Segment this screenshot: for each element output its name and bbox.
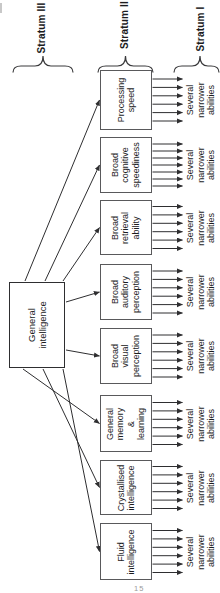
g-to-broad-arrow [63, 228, 100, 282]
narrow-abilities-label: Several narrower abilities [185, 210, 217, 246]
narrow-abilities-label: Several narrower abilities [185, 82, 217, 118]
g-to-broad-arrow [66, 292, 100, 302]
narrow-abilities-label: Several narrower abilities [185, 274, 217, 310]
g-to-broad-arrow [45, 165, 100, 281]
page-edge-artifact [0, 3, 2, 13]
broad-ability-box-general-memory-learning: General memory & learning [100, 395, 152, 452]
broad-ability-box-crystallised-intelligence: Crystallised intelligence [100, 460, 152, 515]
general-intelligence-box: General intelligence [9, 282, 65, 368]
narrow-abilities-label: Several narrower abilities [185, 338, 217, 374]
broad-ability-label: Broad cognitive speediness [110, 142, 141, 188]
stratum-i-label: Stratum I [195, 6, 207, 51]
narrow-abilities-label: Several narrower abilities [185, 406, 217, 442]
stratum-iii-label: Stratum III [36, 2, 48, 53]
broad-ability-box-broad-cognitive-speediness: Broad cognitive speediness [100, 137, 152, 193]
g-to-broad-arrow [63, 369, 100, 552]
broad-ability-label: Processing speed [116, 78, 137, 123]
broad-ability-box-broad-retrieval-ability: Broad retrieval ability [100, 200, 152, 255]
stratum-brace [13, 56, 73, 73]
three-stratum-diagram: Stratum III Stratum II Stratum I General… [0, 0, 220, 593]
broad-ability-label: General memory & learning [105, 407, 147, 440]
broad-ability-box-processing-speed: Processing speed [100, 70, 152, 130]
g-to-broad-arrow [66, 350, 100, 356]
g-to-broad-arrow [25, 100, 100, 281]
broad-ability-box-fluid-intelligence: Fluid intelligence [100, 523, 152, 580]
g-to-broad-arrow [43, 369, 100, 488]
narrow-abilities-label: Several narrower abilities [185, 534, 217, 570]
broad-ability-label: Fluid intelligence [116, 529, 137, 574]
broad-to-narrow-arrows [153, 79, 183, 573]
broad-ability-box-broad-visual-perception: Broad visual perception [100, 328, 152, 384]
g-to-broad-arrow [23, 369, 100, 424]
stratum-brace [174, 56, 219, 73]
broad-ability-label: Broad auditory perception [110, 271, 141, 313]
narrow-abilities-label: Several narrower abilities [185, 147, 217, 183]
narrow-abilities-label: Several narrower abilities [185, 470, 217, 506]
stratum-ii-label: Stratum II [119, 1, 131, 49]
broad-ability-label: Broad visual perception [110, 335, 141, 377]
page-number: 15 [134, 584, 144, 593]
broad-ability-label: Crystallised intelligence [116, 464, 137, 511]
broad-ability-label: Broad retrieval ability [110, 211, 141, 243]
broad-ability-box-broad-auditory-perception: Broad auditory perception [100, 264, 152, 320]
general-intelligence-label: General intelligence [26, 301, 48, 349]
